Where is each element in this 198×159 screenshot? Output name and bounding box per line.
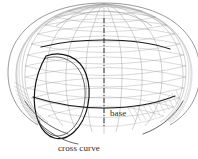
lower-left-hatching [14,82,48,123]
wireframe-surface-figure [0,0,198,159]
base-label: base [110,108,126,118]
figure-container: base cross curve [0,0,198,159]
cross-curve-label: cross curve [58,143,100,153]
